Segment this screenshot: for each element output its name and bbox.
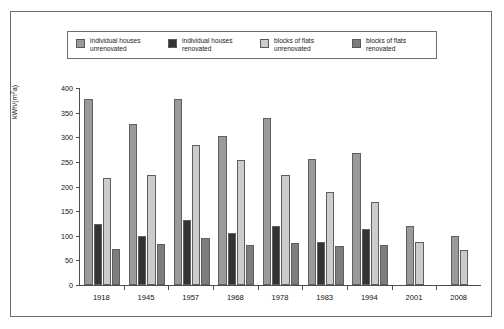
bar-1957-series1[interactable] xyxy=(174,99,182,285)
x-axis-tick-mark xyxy=(213,285,214,290)
bar-group-1918 xyxy=(79,88,124,285)
legend-swatch-icon-individual-houses-renovated xyxy=(168,39,177,48)
bar-1968-series3[interactable] xyxy=(237,160,245,285)
legend-item-label: individual houses unrenovated xyxy=(90,37,141,53)
x-axis-tick-label-1994: 1994 xyxy=(361,293,378,302)
bar-group-1968 xyxy=(213,88,258,285)
bar-1918-series2[interactable] xyxy=(94,224,102,285)
bar-1945-series1[interactable] xyxy=(129,124,137,285)
bar-group-2001 xyxy=(392,88,437,285)
legend-swatch-icon-individual-houses-unrenovated xyxy=(76,39,85,48)
bar-1968-series4[interactable] xyxy=(246,245,254,285)
legend-item-label: individual houses renovated xyxy=(182,37,233,53)
x-axis-tick-mark xyxy=(258,285,259,290)
bar-1978-series4[interactable] xyxy=(291,243,299,285)
legend-swatch-icon-blocks-of-flats-unrenovated xyxy=(260,39,269,48)
x-axis-line xyxy=(79,285,481,286)
bar-group-1978 xyxy=(258,88,303,285)
bar-1918-series3[interactable] xyxy=(103,178,111,285)
bar-1994-series2[interactable] xyxy=(362,229,370,285)
bar-1994-series1[interactable] xyxy=(352,153,360,285)
bar-group-1957 xyxy=(168,88,213,285)
bar-1945-series2[interactable] xyxy=(138,236,146,285)
bar-1957-series3[interactable] xyxy=(192,145,200,285)
bar-group-2008 xyxy=(436,88,481,285)
chart-legend: individual houses unrenovatedindividual … xyxy=(67,31,437,59)
x-axis-tick-mark xyxy=(168,285,169,290)
plot-area: 0501001502002503003504001918194519571968… xyxy=(79,88,481,285)
x-axis-tick-label-2001: 2001 xyxy=(406,293,423,302)
bar-1968-series1[interactable] xyxy=(218,136,226,285)
legend-item-individual-houses-unrenovated[interactable]: individual houses unrenovated xyxy=(68,37,160,53)
bar-1957-series4[interactable] xyxy=(201,238,209,285)
bar-1945-series3[interactable] xyxy=(147,175,155,285)
bar-1978-series3[interactable] xyxy=(281,175,289,285)
x-axis-tick-mark xyxy=(347,285,348,290)
bar-1945-series4[interactable] xyxy=(157,244,165,285)
bar-1918-series4[interactable] xyxy=(112,249,120,285)
x-axis-tick-label-1983: 1983 xyxy=(316,293,333,302)
legend-item-blocks-of-flats-unrenovated[interactable]: blocks of flats unrenovated xyxy=(252,37,344,53)
x-axis-tick-label-1968: 1968 xyxy=(227,293,244,302)
bar-group-1994 xyxy=(347,88,392,285)
bar-1978-series2[interactable] xyxy=(272,226,280,285)
bar-1983-series1[interactable] xyxy=(308,159,316,285)
bar-1968-series2[interactable] xyxy=(228,233,236,285)
bar-1983-series4[interactable] xyxy=(335,246,343,285)
legend-swatch-icon-blocks-of-flats-renovated xyxy=(352,39,361,48)
x-axis-tick-label-1957: 1957 xyxy=(182,293,199,302)
bar-1957-series2[interactable] xyxy=(183,220,191,285)
bar-2008-series3[interactable] xyxy=(460,250,468,285)
x-axis-tick-mark xyxy=(392,285,393,290)
legend-item-label: blocks of flats renovated xyxy=(366,37,406,53)
bar-group-1945 xyxy=(124,88,169,285)
legend-item-individual-houses-renovated[interactable]: individual houses renovated xyxy=(160,37,252,53)
x-axis-tick-label-1945: 1945 xyxy=(138,293,155,302)
x-axis-tick-label-2008: 2008 xyxy=(450,293,467,302)
bar-1983-series3[interactable] xyxy=(326,192,334,285)
x-axis-tick-label-1978: 1978 xyxy=(272,293,289,302)
x-axis-tick-mark xyxy=(302,285,303,290)
bar-1918-series1[interactable] xyxy=(84,99,92,285)
bar-2001-series1[interactable] xyxy=(406,226,414,285)
y-axis-label: kWh/(m2a) xyxy=(9,42,19,162)
bar-1994-series4[interactable] xyxy=(380,245,388,285)
bar-1983-series2[interactable] xyxy=(317,242,325,285)
bar-2001-series3[interactable] xyxy=(415,242,423,285)
bar-1978-series1[interactable] xyxy=(263,118,271,285)
x-axis-tick-mark xyxy=(124,285,125,290)
y-axis-tick-mark xyxy=(76,285,80,286)
bar-2008-series1[interactable] xyxy=(451,236,459,285)
legend-item-blocks-of-flats-renovated[interactable]: blocks of flats renovated xyxy=(344,37,436,53)
x-axis-tick-mark xyxy=(436,285,437,290)
bar-1994-series3[interactable] xyxy=(371,202,379,285)
bar-group-1983 xyxy=(302,88,347,285)
chart-frame: individual houses unrenovatedindividual … xyxy=(10,11,492,317)
x-axis-tick-label-1918: 1918 xyxy=(93,293,110,302)
legend-item-label: blocks of flats unrenovated xyxy=(274,37,314,53)
